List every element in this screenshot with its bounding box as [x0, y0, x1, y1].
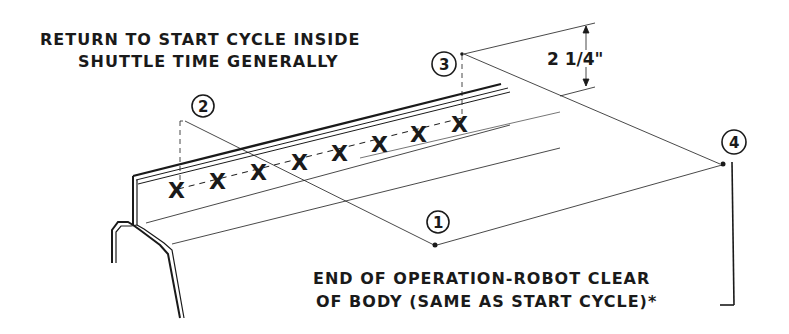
robot-path-diagram: X X X X X X X X 2: [0, 0, 789, 334]
svg-text:2: 2: [198, 98, 208, 116]
point-1-dot: [433, 243, 438, 248]
point-4-dot: [721, 162, 726, 167]
weld-mark-2: X: [209, 169, 226, 194]
weld-mark-6: X: [371, 132, 388, 157]
callout-4: 4: [722, 130, 746, 154]
point-3-dot: [460, 52, 464, 56]
weld-mark-7: X: [410, 122, 427, 147]
weld-marks: X X X X X X X X: [168, 112, 468, 203]
svg-text:1: 1: [433, 214, 443, 232]
path-points: [433, 52, 726, 247]
weld-mark-1: X: [168, 178, 185, 203]
weld-mark-3: X: [250, 160, 267, 185]
weld-mark-8: X: [451, 112, 468, 137]
svg-text:3: 3: [439, 56, 449, 74]
weld-mark-4: X: [291, 150, 308, 175]
callout-1: 1: [427, 211, 449, 233]
weld-mark-5: X: [331, 141, 348, 166]
svg-text:4: 4: [729, 134, 739, 152]
callout-3: 3: [432, 52, 456, 76]
callout-2: 2: [192, 95, 214, 117]
dimension-label: 2 1/4": [547, 49, 603, 69]
